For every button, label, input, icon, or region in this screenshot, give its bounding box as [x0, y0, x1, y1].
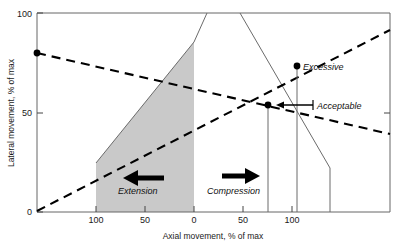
data-point-acceptable [265, 102, 272, 109]
data-point-axis [34, 50, 41, 57]
data-point-excessive [294, 63, 301, 70]
x-axis-title: Axial movement, % of max [163, 231, 264, 241]
acceptable-leader [276, 100, 313, 110]
annotation-acceptable: Acceptable [316, 101, 362, 111]
drop-lines [268, 66, 297, 212]
x-tick-label-3: 50 [238, 215, 248, 225]
chart-svg: 100 50 0 50 100 0 50 100 Axial movement,… [0, 0, 401, 248]
compression-arrow-icon [222, 168, 260, 184]
x-tick-label-4: 100 [284, 215, 299, 225]
y-tick-label-0: 0 [27, 207, 32, 217]
chart-figure: 100 50 0 50 100 0 50 100 Axial movement,… [0, 0, 401, 248]
y-tick-label-100: 100 [17, 9, 32, 19]
y-axis-ticks [37, 13, 390, 212]
x-tick-label-1: 50 [140, 215, 150, 225]
y-tick-label-50: 50 [22, 108, 32, 118]
annotation-compression: Compression [207, 186, 260, 196]
x-tick-label-0: 100 [88, 215, 103, 225]
annotation-extension: Extension [118, 186, 158, 196]
x-tick-label-2: 0 [191, 215, 196, 225]
dashed-trend-lines [37, 30, 390, 211]
annotation-excessive: Excessive [303, 62, 344, 72]
plot-frame [37, 13, 390, 212]
y-axis-title: Lateral movement, % of max [6, 58, 16, 167]
